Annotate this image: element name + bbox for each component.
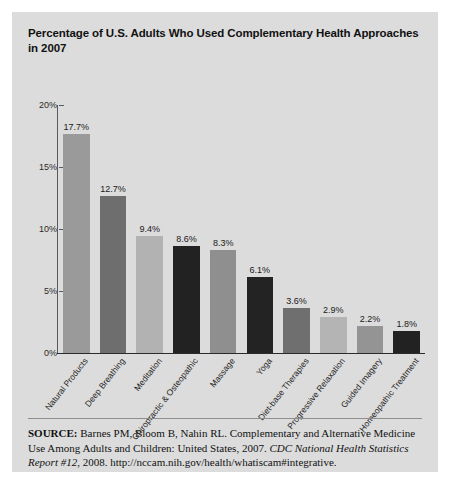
bar-series: 17.7%12.7%9.4%8.6%8.3%6.1%3.6%2.9%2.2%1.… [58,105,425,353]
source-divider [28,418,422,419]
bar-value-label: 8.3% [201,238,246,248]
y-axis-tick-label: 0% [23,348,57,358]
x-axis-label: Massage [208,356,237,389]
bar[interactable]: 1.8% [393,331,420,353]
bar[interactable]: 17.7% [63,134,90,353]
bar[interactable]: 9.4% [136,236,163,353]
source-note: SOURCE: Barnes PM, Bloom B, Nahin RL. Co… [28,426,424,470]
bar-slot[interactable]: 12.7% [95,105,132,353]
bar[interactable]: 12.7% [100,196,127,353]
y-axis-tick-label: 15% [23,162,57,172]
chart-plot-area: 0%5%10%15%20% 17.7%12.7%9.4%8.6%8.3%6.1%… [12,70,438,415]
bar-slot[interactable]: 1.8% [388,105,425,353]
bar[interactable]: 3.6% [283,308,310,353]
x-axis-label: Deep Breathing [83,356,127,409]
bar[interactable]: 6.1% [247,277,274,353]
bar-value-label: 17.7% [54,122,99,132]
bar-slot[interactable]: 8.3% [205,105,242,353]
bar-value-label: 1.8% [384,319,429,329]
bar[interactable]: 2.9% [320,317,347,353]
y-axis-tick-label: 10% [23,224,57,234]
y-axis-tick-label: 5% [23,286,57,296]
bar-slot[interactable]: 2.9% [315,105,352,353]
bar[interactable]: 8.3% [210,250,237,353]
bar-slot[interactable]: 6.1% [242,105,279,353]
source-label: SOURCE: [28,427,78,439]
bar-slot[interactable]: 17.7% [58,105,95,353]
figure-panel: Percentage of U.S. Adults Who Used Compl… [12,12,438,472]
bar-value-label: 12.7% [91,184,136,194]
bar-value-label: 9.4% [127,224,172,234]
bar[interactable]: 2.2% [357,326,384,353]
x-axis-label: Meditation [132,356,164,393]
x-axis-label: Yoga [254,356,274,377]
page-title: Percentage of U.S. Adults Who Used Compl… [28,26,424,56]
bar-value-label: 6.1% [238,265,283,275]
bar-slot[interactable]: 2.2% [352,105,389,353]
bar[interactable]: 8.6% [173,246,200,353]
bar-slot[interactable]: 8.6% [168,105,205,353]
y-axis-tick-label: 20% [23,100,57,110]
x-axis-line [57,353,425,354]
bar-slot[interactable]: 3.6% [278,105,315,353]
source-tail: , 2008. http://nccam.nih.gov/health/what… [77,456,336,468]
bar-slot[interactable]: 9.4% [131,105,168,353]
